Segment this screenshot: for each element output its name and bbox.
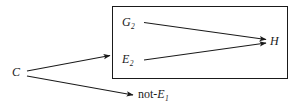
node-base-g: G	[122, 15, 131, 29]
grouping-box	[113, 7, 288, 79]
node-base-e2: E	[122, 52, 129, 66]
node-label-hypothesis: H	[270, 35, 279, 47]
causal-diagram-figure: C G2 E2 H not-E1	[0, 0, 303, 107]
node-base-e1: E	[157, 87, 164, 101]
node-subscript-e2: 2	[130, 59, 134, 68]
node-label-cause: C	[12, 66, 20, 78]
node-subscript-g: 2	[131, 22, 135, 31]
node-label-evidence: E2	[122, 53, 133, 65]
node-label-generalization: G2	[122, 16, 134, 28]
node-label-negated-evidence: not-E1	[138, 88, 168, 100]
node-subscript-e1: 1	[165, 94, 169, 103]
edge-c-to-box	[27, 56, 110, 72]
negation-prefix: not-	[138, 87, 157, 101]
